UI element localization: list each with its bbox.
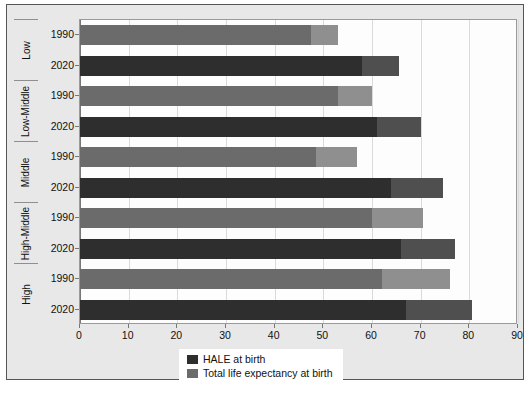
x-axis-tick — [274, 324, 275, 328]
x-axis-tick-label: 60 — [356, 329, 386, 341]
bar-segment-total-life-expectancy — [401, 239, 455, 259]
x-axis-tick-label: 70 — [405, 329, 435, 341]
y-axis-year-label: 1990 — [51, 207, 74, 227]
y-axis-group-high: High — [14, 263, 38, 324]
y-axis-group-label: Low-Middle — [21, 85, 32, 136]
bar-high-middle-2020 — [80, 239, 455, 259]
x-axis-tick — [79, 324, 80, 328]
bar-segment-total-life-expectancy — [338, 86, 372, 106]
bar-segment-total-life-expectancy — [382, 269, 450, 289]
bar-segment-hale — [80, 269, 382, 289]
gridline — [469, 20, 470, 323]
x-axis-tick-label: 90 — [502, 329, 532, 341]
x-axis-tick-label: 80 — [453, 329, 483, 341]
y-axis-group-label: Middle — [21, 157, 32, 186]
x-axis-tick — [225, 324, 226, 328]
bar-segment-hale — [80, 56, 362, 76]
y-axis-year-label: 1990 — [51, 24, 74, 44]
x-axis: 0102030405060708090 — [79, 324, 517, 348]
bar-segment-hale — [80, 25, 311, 45]
x-axis-tick-label: 10 — [113, 329, 143, 341]
legend-swatch-icon — [187, 369, 198, 378]
x-axis-tick — [128, 324, 129, 328]
bar-high-1990 — [80, 269, 450, 289]
bar-segment-hale — [80, 178, 391, 198]
chart-legend: HALE at birthTotal life expectancy at bi… — [179, 349, 343, 384]
legend-label: Total life expectancy at birth — [203, 367, 333, 379]
bar-high-middle-1990 — [80, 208, 423, 228]
y-axis-year-label: 2020 — [51, 299, 74, 319]
gridline — [518, 20, 519, 323]
x-axis-tick — [371, 324, 372, 328]
y-axis-year-label: 2020 — [51, 177, 74, 197]
x-axis-tick — [420, 324, 421, 328]
legend-label: HALE at birth — [203, 353, 265, 365]
x-axis-tick-label: 50 — [307, 329, 337, 341]
bar-segment-hale — [80, 147, 316, 167]
bar-middle-1990 — [80, 147, 357, 167]
bar-low-middle-2020 — [80, 117, 421, 137]
bar-segment-total-life-expectancy — [362, 56, 399, 76]
bar-high-2020 — [80, 300, 472, 320]
bar-middle-2020 — [80, 178, 443, 198]
y-axis-year-label: 1990 — [51, 146, 74, 166]
bar-segment-total-life-expectancy — [372, 208, 423, 228]
x-axis-tick — [517, 324, 518, 328]
x-axis-tick — [176, 324, 177, 328]
x-axis-tick-label: 0 — [64, 329, 94, 341]
x-axis-tick-label: 20 — [161, 329, 191, 341]
y-axis-group-high-middle: High-Middle — [14, 202, 38, 263]
y-axis-year-label: 2020 — [51, 238, 74, 258]
bar-segment-total-life-expectancy — [406, 300, 472, 320]
y-axis-group-low: Low — [14, 19, 38, 80]
x-axis-tick — [322, 324, 323, 328]
bar-segment-hale — [80, 117, 377, 137]
y-axis: LowLow-MiddleMiddleHigh-MiddleHigh199020… — [14, 19, 80, 324]
plot-area — [79, 19, 517, 324]
legend-swatch-icon — [187, 355, 198, 364]
bar-segment-total-life-expectancy — [316, 147, 357, 167]
y-axis-year-label: 1990 — [51, 85, 74, 105]
bar-segment-hale — [80, 86, 338, 106]
bar-segment-hale — [80, 208, 372, 228]
y-axis-group-middle: Middle — [14, 141, 38, 202]
bar-segment-hale — [80, 300, 406, 320]
bar-segment-hale — [80, 239, 401, 259]
bar-segment-total-life-expectancy — [311, 25, 338, 45]
bar-segment-total-life-expectancy — [391, 178, 442, 198]
y-axis-year-label: 2020 — [51, 116, 74, 136]
x-axis-tick — [468, 324, 469, 328]
legend-item: HALE at birth — [187, 352, 333, 366]
y-axis-group-label: Low — [20, 41, 31, 59]
legend-item: Total life expectancy at birth — [187, 366, 333, 380]
chart-figure: LowLow-MiddleMiddleHigh-MiddleHigh199020… — [6, 4, 524, 380]
x-axis-tick-label: 30 — [210, 329, 240, 341]
y-axis-group-label: High — [20, 284, 31, 305]
y-axis-year-label: 2020 — [51, 55, 74, 75]
bar-low-1990 — [80, 25, 338, 45]
bar-low-2020 — [80, 56, 399, 76]
y-axis-group-label: High-Middle — [21, 206, 32, 259]
bar-low-middle-1990 — [80, 86, 372, 106]
y-axis-group-low-middle: Low-Middle — [14, 80, 38, 141]
x-axis-tick-label: 40 — [259, 329, 289, 341]
y-axis-year-label: 1990 — [51, 268, 74, 288]
bar-segment-total-life-expectancy — [377, 117, 421, 137]
